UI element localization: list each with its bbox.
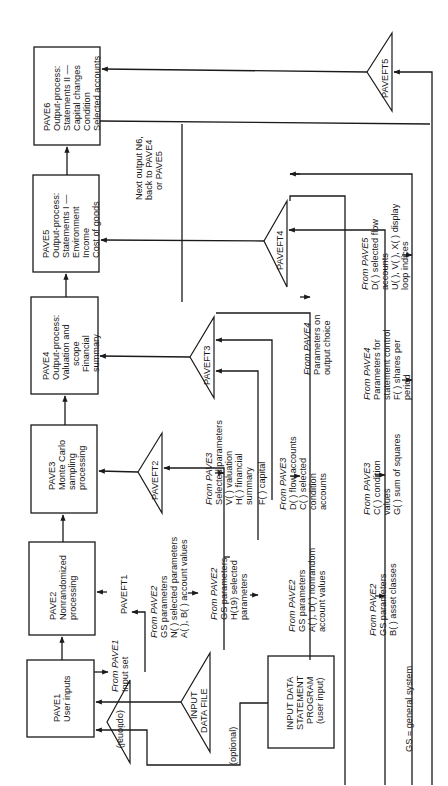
svg-text:GS parameters: GS parameters: [219, 557, 229, 620]
svg-text:H(19) selected: H(19) selected: [229, 560, 239, 620]
svg-text:account values: account values: [317, 570, 327, 632]
svg-text:Parameters on: Parameters on: [312, 315, 322, 375]
svg-text:A( ), B( ) account values: A( ), B( ) account values: [179, 539, 189, 638]
optional-label: (optional): [228, 727, 238, 765]
arrow-paveft3-to-pave4: [100, 356, 190, 357]
paveft3-label: PAVEFT3: [202, 346, 212, 385]
svg-text:V( ) valuation: V( ) valuation: [224, 451, 234, 505]
svg-text:Next output N6,: Next output N6,: [134, 136, 144, 200]
svg-text:processing: processing: [68, 576, 78, 620]
optional-label-upside-down: (optional): [116, 710, 126, 748]
svg-text:values: values: [382, 488, 392, 515]
svg-text:summary: summary: [91, 334, 101, 372]
svg-text:Output-process:: Output-process:: [51, 315, 61, 380]
line-into-paveft1: [132, 612, 145, 672]
svg-text:INPUT: INPUT: [189, 691, 199, 719]
ft3-from-pave4-label: From PAVE4 Parameters on output choice: [302, 315, 332, 375]
svg-text:F( ) capital: F( ) capital: [257, 462, 267, 505]
arrow-paveft5-to-pave6: [102, 69, 367, 72]
svg-text:From PAVE3: From PAVE3: [362, 462, 372, 515]
svg-text:PAVE5: PAVE5: [41, 230, 51, 258]
ft4-from-pave3-label: From PAVE3 C( ) condition values G( ) su…: [362, 433, 402, 515]
svg-text:User inputs: User inputs: [62, 675, 72, 722]
svg-text:output choice: output choice: [322, 320, 332, 375]
svg-text:Capital changes: Capital changes: [72, 65, 82, 131]
svg-text:period: period: [402, 374, 412, 400]
svg-text:Nonrandomized: Nonrandomized: [58, 555, 68, 620]
paveft2-label: PAVEFT2: [150, 461, 160, 500]
svg-text:or PAVE5: or PAVE5: [154, 151, 164, 190]
svg-text:PROGRAM: PROGRAM: [305, 677, 315, 724]
svg-text:GS parameters: GS parameters: [378, 573, 388, 636]
ft4-from-pave2-label: From PAVE2 GS parameters B( ) asset clas…: [368, 563, 398, 636]
svg-text:PAVE1: PAVE1: [52, 694, 62, 722]
input-data-statement-program-label: INPUT DATA STATEMENT PROGRAM (user input…: [285, 675, 325, 730]
ft3-from-pave2-label: From PAVE2 GS parameters A( ), D( ) nonr…: [287, 547, 327, 632]
ft3-from-pave3-label: From PAVE3 D( ) flow accounts C( ) selec…: [278, 436, 328, 510]
svg-text:Selected parameters: Selected parameters: [214, 420, 224, 505]
svg-text:From PAVE4: From PAVE4: [302, 323, 312, 375]
svg-text:scope: scope: [71, 341, 81, 366]
svg-text:PAVE2: PAVE2: [48, 592, 58, 620]
from-pave1-label: From PAVE1 Input set: [110, 640, 130, 692]
svg-text:C( ) condition: C( ) condition: [372, 460, 382, 515]
paveft1-label: PAVEFT1: [119, 575, 129, 614]
arrow-paveft4-to-pave5: [101, 240, 264, 241]
svg-text:condition: condition: [308, 473, 318, 510]
arrow-paveft2-to-pave3: [99, 471, 138, 472]
svg-text:Selected accounts: Selected accounts: [92, 56, 102, 131]
svg-text:Output-process:: Output-process:: [52, 66, 62, 131]
ft2-from-pave2-label: From PAVE2 GS parameters H(19) selected …: [209, 557, 249, 620]
svg-text:From PAVE2: From PAVE2: [149, 586, 159, 638]
svg-text:G( ) sum of squares: G( ) sum of squares: [392, 433, 402, 515]
svg-text:From PAVE2: From PAVE2: [287, 580, 297, 632]
svg-text:From PAVE5: From PAVE5: [360, 237, 370, 290]
svg-text:Statements II —: Statements II —: [62, 64, 72, 131]
svg-text:STATEMENT: STATEMENT: [295, 675, 305, 730]
svg-text:From PAVE2: From PAVE2: [209, 568, 219, 620]
paveft4-label: PAVEFT4: [275, 231, 285, 270]
svg-text:INPUT DATA: INPUT DATA: [285, 676, 295, 730]
svg-text:From PAVE3: From PAVE3: [204, 452, 214, 505]
svg-text:processing: processing: [77, 446, 87, 490]
line-pave6-out: [100, 121, 430, 124]
svg-text:PAVE3: PAVE3: [47, 462, 57, 490]
svg-text:Cost of goods: Cost of goods: [91, 201, 101, 258]
svg-text:A( ), D( ) nonrandom: A( ), D( ) nonrandom: [307, 547, 317, 632]
svg-text:statement control: statement control: [382, 330, 392, 400]
svg-text:Output-process:: Output-process:: [51, 193, 61, 258]
ft1-from-pave2-label: From PAVE2 GS parameters N( ) selected p…: [149, 536, 189, 638]
svg-text:B( ) asset classes: B( ) asset classes: [388, 563, 398, 636]
svg-text:H( ) financial: H( ) financial: [234, 453, 244, 505]
svg-text:Valuation and: Valuation and: [61, 324, 71, 380]
paveft5-label: PAVEFT5: [380, 59, 390, 98]
svg-text:Monte Carlo: Monte Carlo: [57, 440, 67, 490]
svg-text:sampling: sampling: [67, 453, 77, 490]
svg-text:back to PAVE4: back to PAVE4: [144, 140, 154, 200]
svg-text:N( ) selected parameters: N( ) selected parameters: [169, 536, 179, 638]
svg-text:Input set: Input set: [120, 656, 130, 692]
footnote: GS = general system: [404, 666, 414, 752]
svg-text:Condition: Condition: [82, 92, 92, 131]
svg-text:GS parameters: GS parameters: [159, 575, 169, 638]
svg-text:From PAVE3: From PAVE3: [278, 457, 288, 510]
svg-text:(user input): (user input): [315, 678, 325, 724]
svg-text:From PAVE4: From PAVE4: [362, 348, 372, 400]
next-output-label: Next output N6, back to PAVE4 or PAVE5: [134, 136, 164, 200]
svg-text:parameters: parameters: [239, 573, 249, 620]
svg-text:C( ) selected: C( ) selected: [298, 458, 308, 510]
svg-text:Financial: Financial: [81, 335, 91, 372]
svg-text:From PAVE1: From PAVE1: [110, 640, 120, 692]
svg-text:D( ) flow accounts: D( ) flow accounts: [288, 436, 298, 510]
svg-text:D( ) selected flow: D( ) selected flow: [370, 219, 380, 290]
input-data-file-label: INPUT DATA FILE: [189, 688, 209, 733]
svg-text:U( ), V( ), X( ) display: U( ), V( ), X( ) display: [390, 203, 400, 290]
svg-text:DATA FILE: DATA FILE: [199, 688, 209, 733]
svg-text:accounts: accounts: [318, 473, 328, 510]
svg-text:GS parameters: GS parameters: [297, 569, 307, 632]
svg-text:F( ) shares per: F( ) shares per: [392, 340, 402, 400]
svg-text:accounts: accounts: [380, 253, 390, 290]
svg-text:loop indices: loop indices: [400, 241, 410, 290]
svg-text:PAVE6: PAVE6: [42, 103, 52, 131]
svg-text:Parameters for: Parameters for: [372, 339, 382, 400]
